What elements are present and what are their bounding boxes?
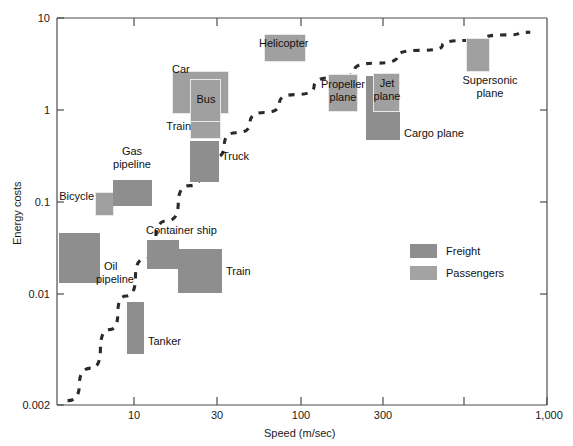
label-container-ship: Container ship xyxy=(146,224,217,236)
box-gas-pipeline[interactable] xyxy=(113,180,152,206)
label-cargo-plane: Cargo plane xyxy=(404,127,464,139)
label-helicopter: Helicopter xyxy=(259,37,309,49)
label-oil-pipeline-line1: Oil xyxy=(104,260,117,272)
legend-item-freight[interactable]: Freight xyxy=(410,243,504,259)
x-tick-label-10: 10 xyxy=(128,410,140,421)
box-train-passenger[interactable] xyxy=(190,119,221,139)
y-tick-marks xyxy=(57,18,64,405)
y-tick-marks-right xyxy=(540,110,547,294)
label-gas-pipeline-line1: Gas xyxy=(122,145,142,157)
box-tanker[interactable] xyxy=(127,302,144,354)
x-tick-marks xyxy=(134,397,547,405)
legend-label-freight: Freight xyxy=(446,246,480,257)
label-train-passenger: Train xyxy=(166,120,191,132)
label-bicycle: Bicycle xyxy=(59,190,94,202)
box-bicycle[interactable] xyxy=(95,192,114,216)
label-tanker: Tanker xyxy=(148,335,181,347)
box-train-freight[interactable] xyxy=(178,249,222,293)
label-propeller-plane-line2: plane xyxy=(330,91,357,103)
legend: Freight Passengers xyxy=(410,243,504,287)
label-truck: Truck xyxy=(222,150,249,162)
label-supersonic-plane-line2: plane xyxy=(477,87,504,99)
box-container-ship[interactable] xyxy=(147,240,179,269)
x-axis-title: Speed (m/sec) xyxy=(264,428,336,439)
legend-item-passengers[interactable]: Passengers xyxy=(410,265,504,281)
box-oil-pipeline[interactable] xyxy=(59,233,100,283)
x-tick-marks-top xyxy=(134,18,464,26)
x-tick-label-100: 100 xyxy=(292,410,310,421)
label-jet-plane-line1: Jet xyxy=(380,77,395,89)
y-tick-label-0.01: 0.01 xyxy=(9,289,50,300)
label-train-freight: Train xyxy=(226,265,251,277)
energy-costs-vs-speed-chart: 10 1 0.1 0.01 0.002 10 30 100 300 1,000 … xyxy=(0,0,573,446)
label-bus: Bus xyxy=(197,93,216,105)
y-tick-label-1: 1 xyxy=(20,105,50,116)
box-truck[interactable] xyxy=(190,141,219,182)
label-jet-plane-line2: plane xyxy=(374,90,401,102)
x-tick-label-300: 300 xyxy=(374,410,392,421)
label-car: Car xyxy=(172,63,190,75)
legend-swatch-passengers xyxy=(410,266,437,280)
box-supersonic-plane[interactable] xyxy=(466,38,490,72)
x-tick-label-30: 30 xyxy=(211,410,223,421)
x-tick-label-1000: 1,000 xyxy=(535,410,563,421)
legend-label-passengers: Passengers xyxy=(446,268,504,279)
label-gas-pipeline-line2: pipeline xyxy=(113,158,151,170)
legend-swatch-freight xyxy=(410,244,437,258)
label-propeller-plane-line1: Propeller xyxy=(321,78,365,90)
y-axis-title: Energy costs xyxy=(12,181,23,245)
y-tick-label-10: 10 xyxy=(20,13,50,24)
y-tick-label-0.002: 0.002 xyxy=(3,400,50,411)
label-oil-pipeline-line2: pipeline xyxy=(96,273,134,285)
label-supersonic-plane-line1: Supersonic xyxy=(462,74,517,86)
